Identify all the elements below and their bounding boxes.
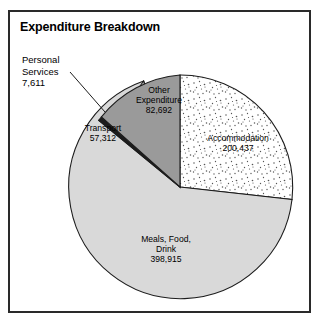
slice-label-transport-value: 57,312 [72,133,134,143]
slice-label-transport-line1: Transport [72,123,134,133]
slice-label-other-expenditure: Other Expenditure 82,692 [123,85,195,116]
slice-label-other-expenditure-value: 82,692 [123,105,195,115]
slice-label-accommodation-line1: Accommodation [194,133,282,143]
callout-personal-services: Personal Services 7,611 [22,54,60,89]
screenshot-root: Expenditure Breakdown [0,0,325,327]
callout-personal-services-value: 7,611 [22,77,60,89]
callout-personal-services-line1: Personal [22,54,60,66]
callout-personal-services-line2: Services [22,66,60,78]
pie-chart [0,0,325,327]
slice-label-meals-line1: Meals, Food, [118,234,214,244]
leader-line-personal-services [70,72,105,112]
slice-label-meals-value: 398,915 [118,254,214,264]
slice-label-other-expenditure-line1: Other [123,85,195,95]
slice-label-transport: Transport 57,312 [72,123,134,143]
slice-label-meals-line2: Drink [118,244,214,254]
slice-label-accommodation: Accommodation 200,437 [194,133,282,153]
slice-label-meals-food-drink: Meals, Food, Drink 398,915 [118,234,214,265]
slice-label-other-expenditure-line2: Expenditure [123,95,195,105]
slice-label-accommodation-value: 200,437 [194,143,282,153]
